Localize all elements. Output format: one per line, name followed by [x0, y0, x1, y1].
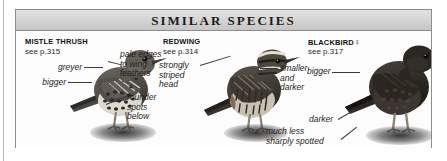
label-bigger-mistle-thrush: bigger	[16, 78, 68, 88]
label-greyer: greyer	[16, 63, 84, 73]
figure-page: SIMILAR SPECIES	[0, 0, 447, 161]
species-page-ref-blackbird: see p.317	[308, 47, 343, 56]
label-bigger-blackbird: bigger	[307, 67, 331, 77]
label-darker-blackbird: darker	[309, 115, 333, 125]
panel-title: SIMILAR SPECIES	[16, 10, 431, 31]
species-name-blackbird-text: BLACKBIRD	[308, 38, 354, 47]
leader-line-bigger-blackbird	[332, 72, 360, 73]
page-margin-rule	[3, 0, 4, 161]
panel-header-band: SIMILAR SPECIES	[16, 10, 431, 31]
label-smaller-line3: darker	[280, 83, 307, 93]
species-name-redwing: REDWING	[163, 37, 200, 46]
leader-line-bigger-mistle-thrush	[68, 82, 92, 83]
label-striped-line3: head	[159, 80, 189, 90]
species-page-ref-mistle-thrush: see p.315	[25, 47, 60, 56]
leader-line-smaller-darker	[260, 68, 278, 69]
leader-line-greyer	[84, 67, 103, 68]
label-pale-edges-to-wing-feathers: pale edges to wing feathers	[120, 50, 162, 79]
panel-body: MISTLE THRUSH see p.315 greyer bigger pa…	[16, 31, 431, 148]
similar-species-panel: SIMILAR SPECIES	[15, 9, 432, 148]
mistle-thrush-shadow	[90, 123, 156, 142]
species-name-blackbird: BLACKBIRD♀	[308, 37, 360, 47]
label-rounder-spots-below: rounder spots below	[127, 93, 156, 122]
species-page-ref-redwing: see p.314	[163, 47, 198, 56]
label-rounder-line3: below	[127, 112, 156, 122]
label-strongly-striped-head: strongly striped head	[159, 61, 189, 90]
label-smaller-and-darker: smaller and darker	[280, 64, 307, 93]
label-less-spotted-line2: sharply spotted	[266, 137, 324, 147]
female-symbol-icon: ♀	[354, 37, 361, 47]
species-name-mistle-thrush: MISTLE THRUSH	[25, 37, 88, 46]
blackbird-shadow	[366, 126, 431, 145]
label-much-less-sharply-spotted: much less sharply spotted	[266, 127, 324, 146]
label-pale-edges-line3: feathers	[120, 69, 162, 79]
